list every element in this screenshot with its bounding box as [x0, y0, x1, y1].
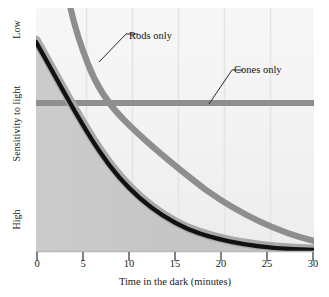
- y-axis-title: Sensitivity to light: [11, 64, 22, 184]
- chart-canvas: [0, 0, 329, 297]
- x-tick-label-10: 10: [117, 258, 141, 269]
- y-axis-bottom-label: High: [11, 202, 22, 238]
- annotation-rods-only: Rods only: [129, 30, 172, 41]
- x-tick-label-0: 0: [25, 258, 49, 269]
- x-tick-label-30: 30: [301, 258, 325, 269]
- x-tick-label-15: 15: [163, 258, 187, 269]
- x-axis-title: Time in the dark (minutes): [36, 276, 314, 287]
- x-tick-label-25: 25: [255, 258, 279, 269]
- y-axis-top-label: Low: [11, 12, 22, 48]
- dark-adaptation-chart: Sensitivity to light Low High 0 5 10 15 …: [0, 0, 329, 297]
- x-tick-label-5: 5: [71, 258, 95, 269]
- x-tick-label-20: 20: [209, 258, 233, 269]
- annotation-cones-only: Cones only: [234, 64, 282, 75]
